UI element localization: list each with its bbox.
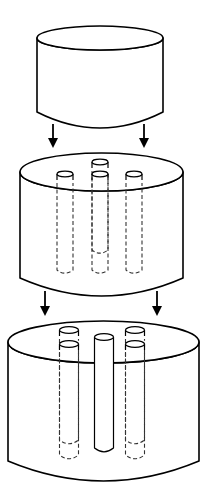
rod-cap [92,171,108,177]
down-arrow-middle-right-icon [152,291,162,316]
rod-cap [57,171,73,177]
bottom-cylinder [8,321,199,481]
rod-shaft [95,337,114,452]
rod-cap [60,341,79,348]
rod-cap [126,171,142,177]
stacked-cylinder-diagram [0,0,211,497]
rod-cap [95,334,114,341]
top-cylinder [37,26,163,128]
cylinder-top-face [37,26,163,50]
rod-cap [126,341,145,348]
down-arrow-middle-left-icon [40,291,50,316]
rod-cap [126,327,145,334]
middle-cylinder [20,153,183,296]
cylinder-body [37,38,163,128]
cylinders-group [8,26,199,481]
down-arrow-top-left-icon [48,124,58,148]
down-arrow-top-right-icon [139,124,149,148]
rod-cap [60,327,79,334]
rod-cap [92,159,108,165]
rod [95,334,114,452]
